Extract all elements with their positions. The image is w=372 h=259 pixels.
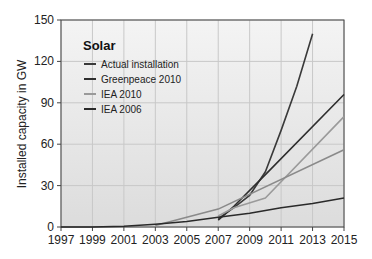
y-tick-label: 150 <box>34 13 54 27</box>
x-tick-label: 2009 <box>236 233 263 247</box>
y-axis-label: Installed capacity in GW <box>15 59 29 188</box>
x-tick-label: 1997 <box>48 233 75 247</box>
x-tick-label: 2007 <box>205 233 232 247</box>
y-tick-label: 120 <box>34 54 54 68</box>
legend-entry: Greenpeace 2010 <box>101 74 182 85</box>
y-tick-label: 0 <box>47 220 54 234</box>
y-tick-label: 30 <box>41 179 55 193</box>
legend-entry: IEA 2010 <box>101 89 142 100</box>
x-tick-label: 2005 <box>173 233 200 247</box>
legend-entry: Actual installation <box>101 59 179 70</box>
solar-capacity-chart: 1997199920012003200520072009201120132015… <box>0 0 372 259</box>
legend-entry: IEA 2006 <box>101 104 142 115</box>
x-tick-label: 2015 <box>331 233 358 247</box>
x-tick-label: 1999 <box>79 233 106 247</box>
x-tick-label: 2011 <box>268 233 294 247</box>
x-tick-label: 2013 <box>299 233 326 247</box>
x-tick-label: 2001 <box>111 233 138 247</box>
y-tick-label: 60 <box>41 137 55 151</box>
x-tick-label: 2003 <box>142 233 169 247</box>
legend-title: Solar <box>83 38 116 53</box>
y-tick-label: 90 <box>41 96 55 110</box>
